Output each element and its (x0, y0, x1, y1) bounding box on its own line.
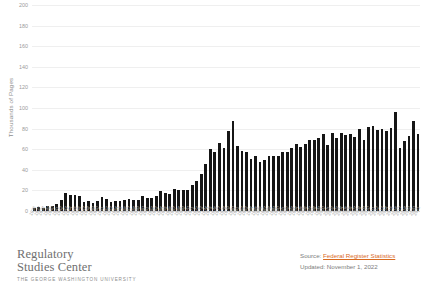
y-tick-label: 180 (19, 23, 28, 29)
bar (286, 152, 289, 211)
source-link[interactable]: Federal Register Statistics (323, 252, 395, 259)
bar (277, 156, 280, 211)
bar (417, 134, 420, 211)
bar (232, 121, 235, 211)
bar (335, 138, 338, 211)
bar (223, 148, 226, 211)
y-tick-label: 80 (22, 126, 28, 132)
y-tick-label: 60 (22, 146, 28, 152)
bar (241, 151, 244, 211)
federal-register-pages-chart: Thousands of Pages 200180160140120100806… (0, 0, 430, 245)
bar (403, 141, 406, 211)
bar (308, 140, 311, 211)
bar (367, 127, 370, 211)
bar (340, 133, 343, 211)
y-tick-label: 100 (19, 105, 28, 111)
bar (245, 152, 248, 211)
bar (394, 112, 397, 211)
plot-area: 200180160140120100806040200 (32, 5, 420, 211)
bar (399, 148, 402, 211)
source-label: Source: (300, 252, 321, 259)
chart-footer: Regulatory Studies Center THE GEORGE WAS… (0, 245, 430, 284)
bar (322, 134, 325, 211)
y-tick-label: 20 (22, 187, 28, 193)
y-tick-label: 120 (19, 84, 28, 90)
bar (204, 164, 207, 211)
y-tick-label: 200 (19, 2, 28, 8)
bar (317, 138, 320, 211)
bar (218, 143, 221, 211)
brand-subtitle: THE GEORGE WASHINGTON UNIVERSITY (17, 277, 136, 282)
bar (358, 129, 361, 211)
source-line: Source: Federal Register Statistics (300, 250, 395, 261)
bar (254, 156, 257, 211)
bar (331, 133, 334, 211)
y-tick-label: 160 (19, 43, 28, 49)
bar (412, 121, 415, 211)
bar (281, 152, 284, 211)
bar (349, 134, 352, 211)
bar (236, 146, 239, 212)
bar (268, 156, 271, 211)
bar (408, 136, 411, 211)
source-block: Source: Federal Register Statistics Upda… (300, 250, 395, 272)
bar (290, 148, 293, 211)
bar (304, 144, 307, 211)
bar (381, 129, 384, 211)
gwu-regulatory-studies-center-logo: Regulatory Studies Center THE GEORGE WAS… (17, 248, 136, 282)
bar-cell (416, 5, 421, 211)
bar (227, 131, 230, 211)
bar (213, 152, 216, 211)
bar (372, 126, 375, 211)
bar (385, 131, 388, 211)
y-axis-title: Thousands of Pages (7, 52, 14, 164)
bar (263, 160, 266, 211)
bar (344, 135, 347, 211)
bar-series (32, 5, 420, 211)
brand-line-1: Regulatory (17, 248, 136, 261)
bar (259, 162, 262, 211)
bar (313, 140, 316, 211)
bar (250, 159, 253, 211)
bar (376, 130, 379, 211)
bar (209, 149, 212, 211)
bar (299, 147, 302, 211)
x-label-cell: 2021 (416, 212, 421, 245)
y-tick-label: 40 (22, 167, 28, 173)
bar (390, 128, 393, 211)
bar (363, 140, 366, 211)
bar (353, 137, 356, 211)
updated-line: Updated: November 1, 2022 (300, 261, 395, 272)
x-axis-tick-labels: 1936193719381939194019411942194319441945… (32, 212, 420, 245)
bar (272, 156, 275, 211)
bar (326, 145, 329, 211)
bar (295, 144, 298, 211)
y-tick-label: 140 (19, 64, 28, 70)
brand-line-2: Studies Center (17, 261, 136, 274)
